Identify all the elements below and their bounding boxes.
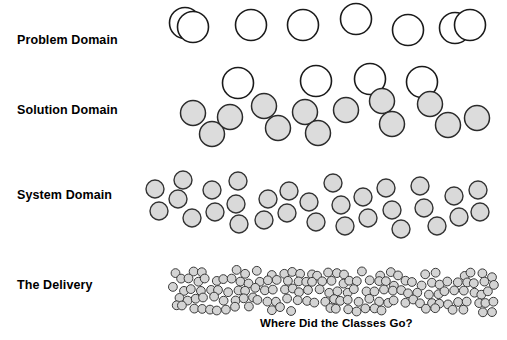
class-bubble — [183, 209, 201, 227]
class-bubble — [232, 266, 241, 275]
class-bubble — [244, 279, 253, 288]
class-bubble — [435, 299, 444, 308]
class-bubble — [389, 296, 398, 305]
row-label-solution-domain: Solution Domain — [17, 104, 118, 117]
class-bubble — [354, 188, 372, 206]
class-bubble — [206, 305, 215, 314]
class-bubble — [200, 274, 209, 283]
class-bubble — [462, 297, 471, 306]
class-bubble — [407, 67, 438, 98]
class-bubble — [416, 299, 425, 308]
class-bubble — [465, 106, 490, 131]
class-bubble — [284, 276, 293, 285]
class-bubble — [332, 196, 350, 214]
class-bubble — [150, 202, 168, 220]
class-bubble — [344, 305, 353, 314]
class-bubble — [175, 294, 184, 303]
class-bubble — [352, 307, 361, 316]
class-bubble — [418, 92, 443, 117]
class-bubble — [471, 203, 489, 221]
class-bubble — [318, 277, 327, 286]
class-bubble — [308, 270, 317, 279]
class-bubble — [306, 121, 331, 146]
class-bubble — [345, 276, 354, 285]
class-bubble — [267, 271, 276, 280]
class-bubble — [178, 12, 209, 43]
class-bubble — [394, 271, 403, 280]
class-bubble — [170, 8, 201, 39]
diagram-caption: Where Did the Classes Go? — [260, 318, 413, 330]
class-bubble — [223, 68, 254, 99]
class-bubble — [354, 297, 363, 306]
class-bubble — [315, 285, 324, 294]
class-bubble — [343, 288, 352, 297]
class-bubble — [239, 294, 248, 303]
class-bubble — [295, 288, 304, 297]
class-bubble — [362, 287, 371, 296]
class-bubble — [280, 182, 298, 200]
class-bubble — [401, 298, 410, 307]
class-bubble — [259, 190, 277, 208]
class-bubble — [477, 290, 486, 299]
class-bubble — [358, 267, 367, 276]
class-bubble — [241, 286, 250, 295]
class-bubble — [466, 268, 475, 277]
class-bubble — [293, 296, 302, 305]
class-bubble — [459, 286, 468, 295]
class-bubble — [301, 66, 332, 97]
class-bubble — [194, 277, 203, 286]
class-bubble — [169, 190, 187, 208]
class-bubble — [397, 286, 406, 295]
class-bubble — [324, 268, 333, 277]
class-bubble — [190, 304, 199, 313]
class-bubble — [359, 209, 377, 227]
class-bubble — [174, 171, 192, 189]
class-bubble — [330, 295, 339, 304]
class-bubble — [463, 278, 472, 287]
class-bubble — [264, 276, 273, 285]
class-bubble — [443, 277, 452, 286]
class-bubble — [440, 13, 471, 44]
class-bubble — [444, 300, 453, 309]
class-bubble — [294, 277, 303, 286]
class-bubble — [431, 304, 440, 313]
class-bubble — [313, 271, 322, 280]
class-bubble — [417, 281, 426, 290]
class-bubble — [177, 274, 186, 283]
class-bubble — [365, 294, 374, 303]
row-label-system-domain: System Domain — [17, 189, 112, 202]
class-bubble — [481, 299, 490, 308]
class-bubble — [343, 295, 352, 304]
class-bubble — [231, 296, 240, 305]
class-bubble — [415, 199, 433, 217]
class-bubble — [390, 281, 399, 290]
class-bubble — [478, 269, 487, 278]
class-bubble — [327, 276, 336, 285]
class-bubble — [288, 268, 297, 277]
class-bubble — [236, 277, 245, 286]
class-bubble — [231, 302, 240, 311]
class-bubble — [434, 290, 443, 299]
class-bubble — [300, 193, 318, 211]
class-bubble — [212, 277, 221, 286]
class-bubble — [236, 10, 267, 41]
class-bubble — [421, 270, 430, 279]
class-bubble — [408, 278, 417, 287]
class-bubble — [222, 305, 231, 314]
class-bubble — [375, 297, 384, 306]
class-bubble — [453, 278, 462, 287]
class-bubble — [197, 268, 206, 277]
class-bubble — [459, 305, 468, 314]
class-bubble — [268, 306, 277, 315]
class-bubble — [251, 283, 260, 292]
class-bubble — [183, 296, 192, 305]
class-bubble — [336, 217, 354, 235]
class-bubble — [488, 273, 497, 282]
class-bubble — [272, 276, 281, 285]
class-bubble — [171, 269, 180, 278]
class-bubble — [470, 288, 479, 297]
class-bubble — [450, 208, 468, 226]
class-bubble — [146, 180, 164, 198]
class-bubble — [448, 305, 457, 314]
class-bubble — [455, 10, 486, 41]
